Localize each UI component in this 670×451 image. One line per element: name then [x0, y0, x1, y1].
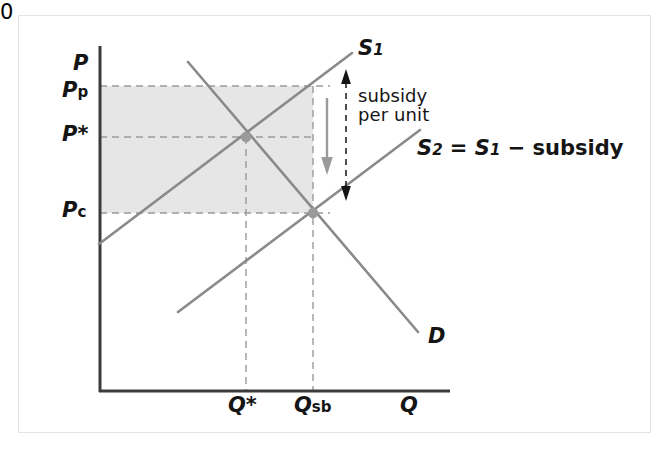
price-tick-pp-sub: p [77, 83, 88, 101]
price-tick-pstar: P* [62, 123, 88, 145]
curve-label-s2-subscript-2: 2 [432, 141, 442, 159]
price-tick-pp-base: P [62, 78, 77, 102]
curve-label-s1-base: S [358, 36, 373, 60]
quantity-tick-qstar-base: Q [228, 393, 246, 417]
supply-demand-chart [0, 0, 670, 451]
supply-shift-down-arrow [321, 98, 333, 175]
price-tick-pstar-base: P [62, 122, 77, 146]
x-axis-label: Q [400, 394, 418, 416]
subsidy-per-unit-annotation: subsidy per unit [358, 87, 429, 125]
curve-label-s1-sub: 1 [373, 41, 383, 59]
curve-label-s2-s: S [417, 136, 432, 160]
curve-label-s1: S1 [358, 37, 384, 59]
quantity-tick-qstar-sub: * [246, 393, 257, 417]
quantity-tick-qsb-base: Q [294, 393, 312, 417]
curve-label-s2-s1: S [475, 136, 490, 160]
curve-label-s2: S2 = S1 − subsidy [417, 137, 623, 159]
subsidy-per-unit-arrow [341, 69, 351, 201]
price-tick-pstar-sub: * [77, 122, 88, 146]
subsidy-annotation-line-2: per unit [358, 106, 429, 125]
curve-label-d: D [428, 325, 445, 347]
curve-label-s2-minus-subsidy: − subsidy [500, 136, 623, 160]
price-tick-pc-sub: c [77, 203, 86, 221]
equilibrium-point-post-subsidy [308, 208, 318, 218]
quantity-tick-qsb: Qsb [294, 394, 332, 416]
curve-label-s2-equals: = [443, 136, 475, 160]
y-axis-label: P [73, 52, 88, 74]
price-tick-pc: Pc [62, 199, 86, 221]
quantity-tick-qstar: Q* [228, 394, 257, 416]
price-tick-pp: Pp [62, 79, 88, 101]
equilibrium-point-free-market [241, 132, 251, 142]
quantity-tick-qsb-sub: sb [312, 398, 332, 416]
curve-label-s2-subscript-1: 1 [490, 141, 500, 159]
figure-root: P Pp P* Pc 0 Q* Qsb Q S1 S2 = S1 − subsi… [0, 0, 670, 451]
price-tick-pc-base: P [62, 198, 77, 222]
